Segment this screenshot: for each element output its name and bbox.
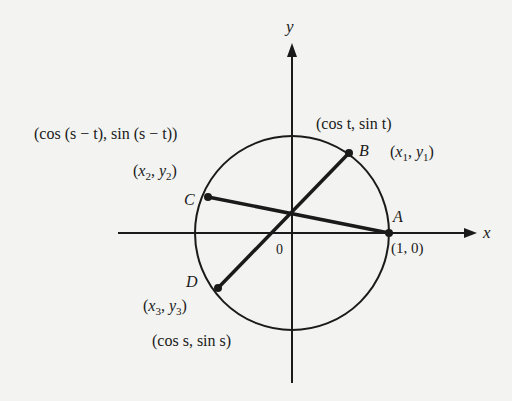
point-D-ysub: 3 bbox=[176, 305, 182, 317]
unit-circle-diagram bbox=[0, 0, 512, 401]
point-B-name: B bbox=[359, 143, 369, 159]
point-C-ysub: 2 bbox=[166, 170, 172, 182]
point-C-trig: (cos (s − t), sin (s − t)) bbox=[34, 126, 177, 142]
point-B-ysub: 1 bbox=[423, 151, 429, 163]
point-C-name: C bbox=[184, 192, 195, 208]
point-D-trig: (cos s, sin s) bbox=[152, 333, 231, 349]
point-B-xy: (x1, y1) bbox=[390, 144, 434, 163]
point-C-xsub: 2 bbox=[145, 170, 151, 182]
point-D bbox=[214, 284, 222, 292]
origin-label: 0 bbox=[276, 243, 283, 257]
point-D-name: D bbox=[186, 274, 198, 290]
point-D-yvar: y bbox=[169, 297, 176, 314]
point-B bbox=[345, 149, 353, 157]
point-A bbox=[385, 229, 393, 237]
point-A-coords: (1, 0) bbox=[391, 241, 424, 256]
point-C-yvar: y bbox=[159, 162, 166, 179]
point-C bbox=[204, 193, 212, 201]
x-axis-label: x bbox=[483, 224, 491, 241]
point-B-trig: (cos t, sin t) bbox=[316, 116, 392, 132]
point-A-name: A bbox=[393, 209, 403, 225]
point-D-xy: (x3, y3) bbox=[143, 298, 187, 317]
y-axis-label: y bbox=[286, 18, 294, 35]
point-B-xsub: 1 bbox=[402, 151, 408, 163]
chord-CA bbox=[208, 197, 389, 233]
y-axis-arrow-icon bbox=[287, 43, 297, 57]
point-C-xy: (x2, y2) bbox=[133, 163, 177, 182]
point-D-xsub: 3 bbox=[155, 305, 161, 317]
point-B-yvar: y bbox=[416, 143, 423, 160]
x-axis-arrow-icon bbox=[464, 228, 477, 238]
